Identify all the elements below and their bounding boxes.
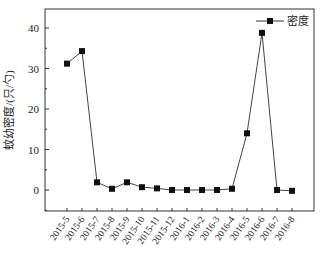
y-tick-label: 0 <box>34 184 40 196</box>
data-point-square-marker-icon <box>64 61 70 67</box>
data-point-square-marker-icon <box>289 188 295 194</box>
data-point-square-marker-icon <box>109 186 115 192</box>
legend-square-marker-icon <box>267 18 273 24</box>
data-point-square-marker-icon <box>244 130 250 136</box>
data-point-square-marker-icon <box>274 187 280 193</box>
data-point-square-marker-icon <box>79 48 85 54</box>
series-density <box>64 30 295 194</box>
data-point-square-marker-icon <box>259 30 265 36</box>
data-point-square-marker-icon <box>139 184 145 190</box>
legend: 密度 <box>256 14 309 27</box>
data-point-square-marker-icon <box>184 187 190 193</box>
data-point-square-marker-icon <box>199 187 205 193</box>
y-tick-label: 20 <box>28 103 40 115</box>
legend-label: 密度 <box>287 14 309 27</box>
data-point-square-marker-icon <box>169 187 175 193</box>
data-point-square-marker-icon <box>94 179 100 185</box>
y-tick-label: 10 <box>28 144 40 156</box>
y-axis: 010203040 <box>28 22 49 210</box>
y-tick-label: 30 <box>28 63 40 75</box>
data-point-square-marker-icon <box>214 187 220 193</box>
data-point-square-marker-icon <box>229 186 235 192</box>
plot-frame <box>45 9 314 211</box>
x-axis: 2015-52015-62015-72015-82015-92015-10201… <box>48 208 297 246</box>
line-chart: 010203040 2015-52015-62015-72015-82015-9… <box>0 0 326 261</box>
y-tick-label: 40 <box>28 22 40 34</box>
data-point-square-marker-icon <box>154 185 160 191</box>
y-axis-label: 蚊幼密度/(只/勺) <box>2 70 16 150</box>
data-point-square-marker-icon <box>124 179 130 185</box>
